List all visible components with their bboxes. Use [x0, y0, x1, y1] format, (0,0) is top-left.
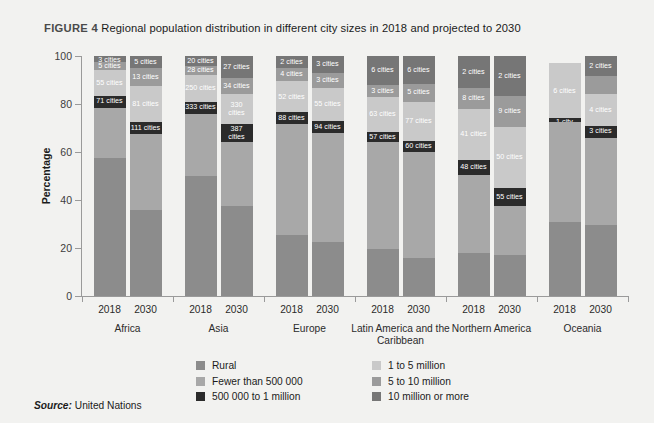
bar-segment[interactable] [585, 225, 617, 296]
bar-segment[interactable]: 6 cities [367, 56, 399, 85]
bar-segment[interactable] [276, 124, 308, 234]
bar-segment[interactable]: 57 cities [367, 132, 399, 143]
bar-segment[interactable]: 77 cities [403, 102, 435, 142]
bar-europe-2018[interactable]: 88 cities52 cities4 cities2 cities [276, 56, 308, 296]
bar-segment[interactable] [585, 76, 617, 94]
bar-segment[interactable]: 9 cities [494, 96, 526, 127]
bar-segment[interactable]: 4 cities [276, 68, 308, 81]
bar-segment[interactable]: 3 cities [94, 56, 126, 62]
x-group-tick [628, 296, 629, 302]
bar-segment[interactable]: 71 cities [94, 96, 126, 108]
bar-segment[interactable]: 2 cities [458, 56, 490, 88]
legend-item[interactable]: Fewer than 500 000 [196, 374, 303, 390]
bar-segment[interactable]: 20 cities [185, 56, 217, 66]
bar-segment[interactable]: 5 cities [130, 56, 162, 68]
bar-segment[interactable]: 2 cities [494, 56, 526, 96]
bar-segment[interactable] [367, 249, 399, 296]
bar-segment[interactable]: 50 cities [494, 127, 526, 188]
bar-europe-2030[interactable]: 94 cities55 cities3 cities3 cities [312, 56, 344, 296]
bar-segment[interactable]: 94 cities [312, 121, 344, 133]
legend-swatch-icon [372, 361, 381, 370]
x-group-tick [264, 296, 265, 302]
bar-segment[interactable] [312, 242, 344, 296]
bar-segment[interactable]: 3 cities [585, 126, 617, 138]
legend-item[interactable]: Rural [196, 358, 303, 374]
bar-segment[interactable] [221, 142, 253, 206]
bar-segment[interactable]: 55 cities [312, 88, 344, 120]
bar-segment[interactable]: 55 cities [94, 70, 126, 95]
legend-item[interactable]: 10 million or more [372, 389, 469, 405]
bar-segment[interactable] [130, 134, 162, 210]
bar-segment[interactable]: 88 cities [276, 112, 308, 124]
bar-segment[interactable] [367, 142, 399, 249]
bar-segment[interactable]: 333 cities [185, 102, 217, 114]
bar-segment[interactable] [458, 175, 490, 253]
bar-africa-2030[interactable]: 111 cities81 cities13 cities5 cities [130, 56, 162, 296]
bar-segment[interactable]: 13 cities [130, 68, 162, 86]
bar-segment[interactable] [549, 222, 581, 296]
bar-segment[interactable]: 41 cities [458, 109, 490, 161]
bar-segment[interactable]: 4 cities [585, 94, 617, 125]
bar-segment[interactable]: 60 cities [403, 141, 435, 152]
bar-latin-america-and-the-caribbean-2030[interactable]: 60 cities77 cities5 cities6 cities [403, 56, 435, 296]
bar-segment[interactable]: 2 cities [276, 56, 308, 68]
bar-segment[interactable]: 63 cities [367, 97, 399, 132]
bar-segment[interactable]: 52 cities [276, 81, 308, 112]
bar-oceania-2018[interactable]: 1 city6 cities [549, 56, 581, 296]
bar-segment[interactable]: 27 cities [221, 56, 253, 78]
bar-segment[interactable]: 330 cities [221, 94, 253, 124]
bar-segment[interactable] [312, 133, 344, 242]
segment-value-label: 2 cities [458, 68, 490, 76]
bar-segment[interactable]: 387 cities [221, 124, 253, 142]
bar-africa-2018[interactable]: 71 cities55 cities5 cities3 cities [94, 56, 126, 296]
bar-segment[interactable]: 3 cities [312, 73, 344, 89]
x-axis-year-label: 2030 [579, 304, 623, 315]
bar-segment[interactable] [585, 138, 617, 226]
bar-segment[interactable]: 6 cities [549, 63, 581, 118]
bar-asia-2030[interactable]: 387 cities330 cities34 cities27 cities [221, 56, 253, 296]
bar-segment[interactable] [549, 122, 581, 222]
bar-segment[interactable] [403, 258, 435, 296]
bar-segment[interactable] [94, 108, 126, 158]
bar-segment[interactable] [185, 176, 217, 296]
segment-value-label: 20 cities [185, 57, 217, 65]
bar-oceania-2030[interactable]: 3 cities4 cities2 cities [585, 56, 617, 296]
legend-item[interactable]: 5 to 10 million [372, 374, 469, 390]
bar-segment[interactable]: 3 cities [312, 56, 344, 73]
bar-segment[interactable] [403, 152, 435, 258]
segment-value-label: 333 cities [185, 103, 217, 111]
segment-value-label: 330 cities [221, 101, 253, 118]
figure-number: FIGURE 4 [44, 22, 98, 34]
bar-segment[interactable]: 250 cities [185, 75, 217, 101]
legend-swatch-icon [372, 377, 381, 386]
bar-segment[interactable]: 28 cities [185, 66, 217, 76]
bar-segment[interactable]: 3 cities [367, 85, 399, 97]
segment-value-label: 6 cities [549, 87, 581, 95]
bar-segment[interactable] [276, 235, 308, 296]
bar-segment[interactable] [221, 206, 253, 296]
bar-segment[interactable]: 111 cities [130, 122, 162, 134]
bar-segment[interactable]: 6 cities [403, 56, 435, 84]
bar-asia-2018[interactable]: 333 cities250 cities28 cities20 cities [185, 56, 217, 296]
bar-segment[interactable] [130, 210, 162, 296]
bar-segment[interactable] [494, 206, 526, 255]
bar-segment[interactable]: 8 cities [458, 88, 490, 108]
bar-segment[interactable]: 34 cities [221, 78, 253, 95]
bar-segment[interactable]: 48 cities [458, 160, 490, 174]
bar-segment[interactable]: 5 cities [94, 62, 126, 70]
bar-northern-america-2030[interactable]: 55 cities50 cities9 cities2 cities [494, 56, 526, 296]
bar-northern-america-2018[interactable]: 48 cities41 cities8 cities2 cities [458, 56, 490, 296]
segment-value-label: 250 cities [185, 84, 217, 92]
bar-segment[interactable]: 1 city [549, 118, 581, 122]
bar-segment[interactable] [185, 114, 217, 176]
bar-segment[interactable]: 2 cities [585, 56, 617, 76]
bar-segment[interactable] [494, 255, 526, 296]
legend-item[interactable]: 500 000 to 1 million [196, 389, 303, 405]
bar-segment[interactable]: 81 cities [130, 86, 162, 122]
legend-item[interactable]: 1 to 5 million [372, 358, 469, 374]
bar-latin-america-and-the-caribbean-2018[interactable]: 57 cities63 cities3 cities6 cities [367, 56, 399, 296]
bar-segment[interactable] [458, 253, 490, 296]
bar-segment[interactable]: 55 cities [494, 188, 526, 206]
bar-segment[interactable]: 5 cities [403, 84, 435, 102]
bar-segment[interactable] [94, 158, 126, 296]
